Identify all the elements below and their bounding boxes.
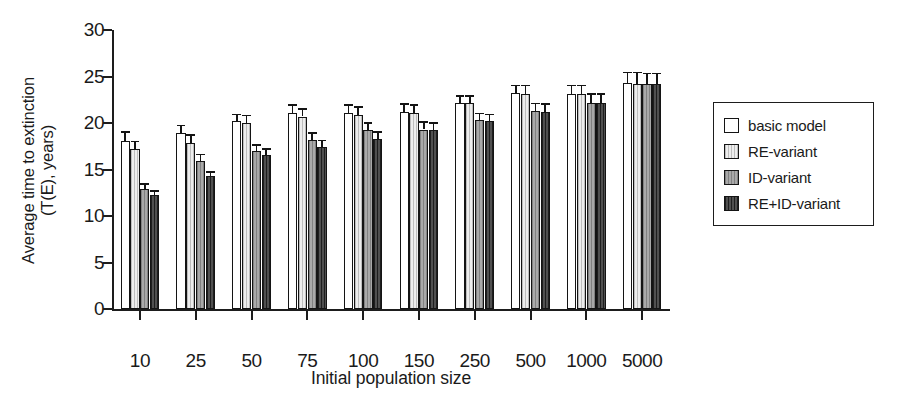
error-bar-id-5000: [646, 73, 648, 84]
y-axis-tick-label: 0: [58, 298, 104, 320]
y-axis-tick: [103, 29, 112, 31]
error-bar-re-5000: [636, 72, 638, 84]
y-axis-tick: [103, 215, 112, 217]
x-axis-tick: [530, 311, 532, 320]
y-axis-tick-label: 15: [58, 159, 104, 181]
plot-area: 1025507510015025050010005000: [112, 30, 670, 309]
y-axis-tick: [103, 308, 112, 310]
error-bar-basic-5000: [627, 72, 629, 83]
x-axis-tick: [195, 311, 197, 320]
bar-re-5000: [633, 84, 642, 309]
x-axis-tick: [306, 311, 308, 320]
error-bar-cap-reid-5000: [652, 73, 661, 75]
light-gray-square-icon: [724, 144, 739, 159]
y-axis-tick-label: 5: [58, 252, 104, 274]
legend-item-label: RE-variant: [748, 143, 817, 160]
y-axis-tick: [103, 262, 112, 264]
x-axis-tick: [251, 311, 253, 320]
y-axis-tick-label: 25: [58, 66, 104, 88]
bar-id-5000: [642, 84, 651, 309]
y-axis-tick-label: 30: [58, 19, 104, 41]
x-axis-tick: [362, 311, 364, 320]
x-axis-title: Initial population size: [112, 368, 670, 389]
legend-item-label: basic model: [748, 117, 826, 134]
y-axis-tick-label: 20: [58, 112, 104, 134]
legend-item-reid[interactable]: RE+ID-variant: [724, 190, 865, 216]
legend-item-id[interactable]: ID-variant: [724, 164, 865, 190]
legend-item-label: ID-variant: [748, 169, 811, 186]
y-axis-title-line2: (T(E), years): [38, 77, 57, 264]
bar-reid-5000: [652, 84, 661, 309]
x-axis-tick: [585, 311, 587, 320]
x-axis-tick: [641, 311, 643, 320]
dark-gray-square-icon: [724, 196, 739, 211]
y-axis-tick: [103, 169, 112, 171]
y-axis-title-line1: Average time to extinction: [19, 77, 38, 264]
y-axis-tick-labels: 051015202530: [58, 0, 104, 415]
legend-item-basic[interactable]: basic model: [724, 112, 865, 138]
error-bar-cap-id-5000: [643, 73, 652, 75]
error-bar-reid-5000: [656, 73, 658, 84]
error-bar-cap-basic-5000: [623, 72, 632, 74]
legend: basic modelRE-variantID-variantRE+ID-var…: [713, 102, 874, 226]
x-axis-tick: [418, 311, 420, 320]
bar-group-5000: [112, 30, 670, 309]
white-square-icon: [724, 118, 739, 133]
x-axis-tick: [474, 311, 476, 320]
x-axis-tick: [139, 311, 141, 320]
legend-item-re[interactable]: RE-variant: [724, 138, 865, 164]
medium-gray-square-icon: [724, 170, 739, 185]
y-axis-tick-label: 10: [58, 205, 104, 227]
legend-item-label: RE+ID-variant: [748, 195, 840, 212]
bar-chart-figure: Average time to extinction (T(E), years)…: [0, 0, 904, 415]
y-axis-tick: [103, 122, 112, 124]
error-bar-cap-re-5000: [633, 72, 642, 74]
bar-basic-5000: [623, 83, 632, 309]
y-axis-tick: [103, 76, 112, 78]
